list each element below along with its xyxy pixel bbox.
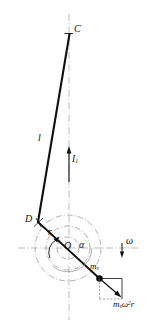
radius-arc bbox=[49, 240, 56, 258]
label-centrifugal-force-radius: r bbox=[131, 299, 135, 309]
angular-velocity-arrow-group bbox=[120, 243, 124, 258]
inertia-force-arrowhead bbox=[67, 146, 72, 154]
label-point-c: C bbox=[74, 24, 81, 34]
centrifugal-force-shaft bbox=[100, 279, 118, 294]
inertia-force-arrow-group bbox=[67, 146, 72, 182]
label-slider-mass: ms bbox=[90, 262, 99, 272]
label-connecting-rod-length: l bbox=[38, 133, 41, 143]
label-centrifugal-force: msω2r bbox=[113, 300, 134, 310]
label-crank-radius: r bbox=[48, 228, 52, 238]
label-point-d: D bbox=[25, 214, 32, 224]
mechanism-figure: C l I1 D r O α ω ms msω2r bbox=[0, 0, 153, 326]
angular-velocity-arrowhead bbox=[120, 252, 124, 259]
label-slider-mass-subscript: s bbox=[97, 265, 99, 271]
centrifugal-force-group bbox=[100, 279, 123, 300]
label-inertia-force-subscript: 1 bbox=[75, 158, 78, 164]
connecting-rod-line bbox=[38, 34, 70, 222]
label-crank-angle: α bbox=[79, 240, 84, 250]
radius-arrow-group bbox=[49, 237, 60, 259]
centerlines bbox=[18, 14, 140, 320]
label-inertia-force: I1 bbox=[72, 155, 78, 165]
label-center-o: O bbox=[64, 241, 71, 251]
label-angular-velocity: ω bbox=[126, 236, 133, 246]
